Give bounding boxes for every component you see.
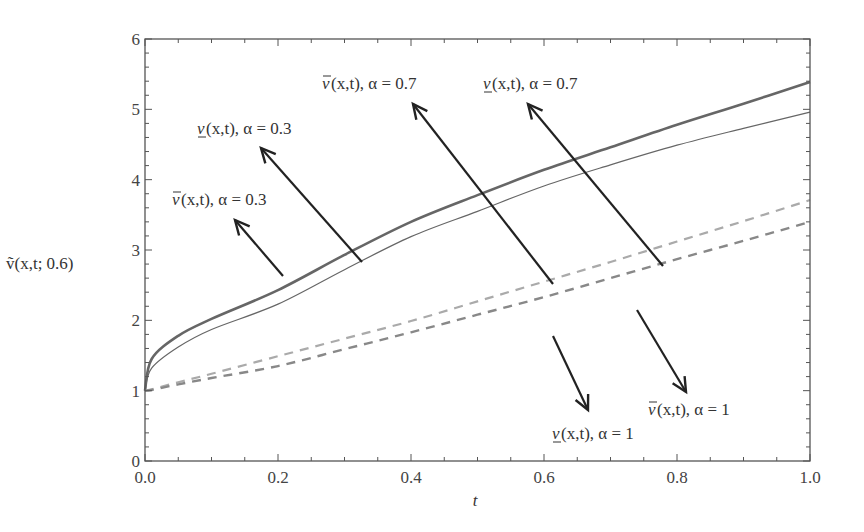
- y-tick-label: 6: [132, 30, 141, 49]
- annotation-arrow-4: [553, 336, 588, 410]
- annotation-label-2: v(x,t), α = 0.7: [322, 74, 417, 93]
- x-tick-label: 0.2: [267, 468, 288, 487]
- annotation-labels-layer: v(x,t), α = 0.3v(x,t), α = 0.3v(x,t), α …: [172, 74, 730, 443]
- annotation-label-3: v(x,t), α = 0.7: [483, 74, 578, 93]
- annotation-label-1: v(x,t), α = 0.3: [197, 119, 292, 138]
- y-axis-label: ṽ(x,t; 0.6): [6, 254, 74, 273]
- annotation-arrow-0: [235, 220, 283, 276]
- x-axis-label: t: [473, 491, 479, 510]
- annotation-text: (x,t), α = 1: [657, 400, 730, 419]
- y-tick-label: 3: [132, 241, 141, 260]
- arrowhead-icon: [673, 376, 686, 392]
- annotation-text: (x,t), α = 0.7: [492, 74, 578, 93]
- annotation-symbol: v: [552, 424, 560, 443]
- annotation-arrow-5: [637, 310, 686, 392]
- annotation-arrow-1: [261, 148, 362, 262]
- annotation-symbol: v: [322, 74, 330, 93]
- annotation-label-4: v(x,t), α = 1: [552, 424, 634, 443]
- annotation-symbol: v: [172, 190, 180, 209]
- annotation-label-5: v(x,t), α = 1: [648, 400, 730, 419]
- y-tick-label: 0: [132, 452, 141, 471]
- y-tick-labels: 0123456: [132, 30, 141, 471]
- annotation-arrows-layer: [235, 104, 686, 410]
- annotation-symbol: v: [483, 74, 491, 93]
- series-line-2: [145, 200, 810, 391]
- annotation-text: (x,t), α = 1: [561, 424, 634, 443]
- annotation-label-0: v(x,t), α = 0.3: [172, 190, 267, 209]
- annotation-text: (x,t), α = 0.3: [181, 190, 267, 209]
- y-tick-label: 4: [132, 171, 141, 190]
- y-tick-label: 5: [132, 100, 141, 119]
- annotation-symbol: v: [648, 400, 656, 419]
- annotation-arrow-2: [413, 104, 553, 284]
- x-tick-label: 0.8: [666, 468, 687, 487]
- y-tick-label: 1: [132, 382, 141, 401]
- x-tick-label: 0.6: [533, 468, 554, 487]
- chart-canvas: v(x,t), α = 0.3v(x,t), α = 0.3v(x,t), α …: [0, 0, 864, 532]
- series-line-1: [145, 112, 810, 391]
- annotation-symbol: v: [197, 119, 205, 138]
- annotation-text: (x,t), α = 0.3: [206, 119, 292, 138]
- annotation-text: (x,t), α = 0.7: [331, 74, 417, 93]
- x-tick-label: 1.0: [799, 468, 820, 487]
- x-tick-label: 0.4: [400, 468, 422, 487]
- x-tick-labels: 0.00.20.40.60.81.0: [134, 468, 820, 487]
- y-tick-label: 2: [132, 311, 141, 330]
